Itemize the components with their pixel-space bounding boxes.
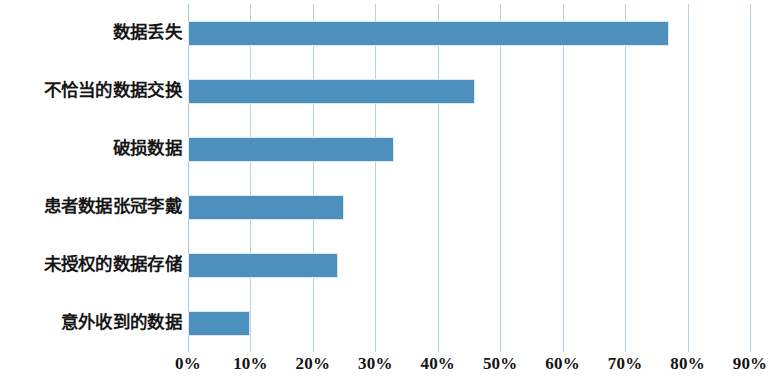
x-axis-tick-labels: 0%10%20%30%40%50%60%70%80%90% — [0, 352, 779, 376]
x-tick-label: 70% — [608, 354, 643, 374]
category-label: 患者数据张冠李戴 — [0, 198, 182, 216]
bar-row — [188, 20, 750, 46]
x-tick-label: 50% — [483, 354, 518, 374]
bar[interactable] — [188, 79, 475, 104]
bar[interactable] — [188, 195, 344, 220]
x-tick-label: 0% — [175, 354, 201, 374]
category-axis: 数据丢失 不恰当的数据交换 破损数据 患者数据张冠李戴 未授权的数据存储 意外收… — [0, 4, 182, 352]
bar-row — [188, 136, 750, 162]
bar[interactable] — [188, 21, 669, 46]
bar-row — [188, 78, 750, 104]
category-label: 未授权的数据存储 — [0, 256, 182, 274]
bar[interactable] — [188, 311, 250, 336]
x-tick-label: 30% — [358, 354, 393, 374]
category-label: 意外收到的数据 — [0, 314, 182, 332]
bar-chart: 数据丢失 不恰当的数据交换 破损数据 患者数据张冠李戴 未授权的数据存储 意外收… — [0, 0, 779, 376]
x-tick-label: 20% — [296, 354, 331, 374]
category-label: 不恰当的数据交换 — [0, 82, 182, 100]
x-tick-label: 10% — [233, 354, 268, 374]
gridline — [750, 4, 751, 352]
bar-row — [188, 310, 750, 336]
bar-row — [188, 194, 750, 220]
bar[interactable] — [188, 137, 394, 162]
x-tick-label: 40% — [420, 354, 455, 374]
bar-row — [188, 252, 750, 278]
x-tick-label: 60% — [545, 354, 580, 374]
x-tick-label: 80% — [670, 354, 705, 374]
bars-layer — [188, 4, 750, 352]
bar[interactable] — [188, 253, 338, 278]
category-label: 数据丢失 — [0, 24, 182, 42]
x-tick-label: 90% — [733, 354, 768, 374]
plot-area — [188, 4, 750, 352]
category-label: 破损数据 — [0, 140, 182, 158]
